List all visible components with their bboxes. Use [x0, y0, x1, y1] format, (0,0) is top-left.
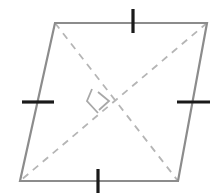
rhombus-diagram: [0, 0, 212, 195]
geometry-figure-canvas: [0, 0, 212, 195]
